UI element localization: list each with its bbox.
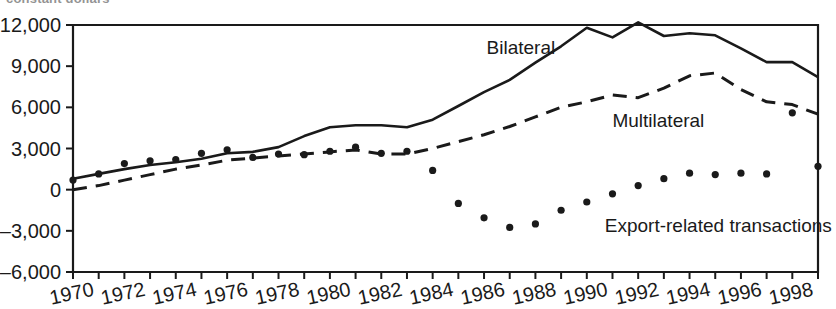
x-tick-label: 1986 [459,278,507,309]
x-tick-label: 1990 [561,278,609,309]
series-solid [73,22,818,178]
x-tick-label: 1972 [99,278,147,309]
data-point [737,170,744,177]
data-point [635,182,642,189]
x-tick-label: 1994 [664,278,712,309]
data-point [609,190,616,197]
series-annotations: BilateralMultilateralExport-related tran… [487,37,832,236]
data-point [480,214,487,221]
data-point [583,198,590,205]
x-tick-label: 1982 [356,278,404,309]
data-point [455,200,462,207]
y-tick-label: 6,000 [11,96,61,118]
data-point [352,144,359,151]
series-label: Bilateral [487,37,556,58]
data-point [712,171,719,178]
series-dashed [73,73,818,190]
data-point [686,170,693,177]
data-point [224,146,231,153]
data-point [403,148,410,155]
x-axis-labels: 1970197219741976197819801982198419861988… [47,278,814,309]
data-point [249,154,256,161]
x-tick-label: 1980 [304,278,352,309]
x-tick-label: 1976 [202,278,250,309]
y-tick-label: 12,000 [0,14,61,36]
data-point [789,109,796,116]
data-point [660,175,667,182]
y-tick-label: –6,000 [0,261,61,283]
data-point [506,224,513,231]
series-label: Export-related transactions [605,215,832,236]
cut-off-chart-title: constant dollars [6,0,110,6]
data-point [146,157,153,164]
data-point [95,170,102,177]
data-point [121,160,128,167]
series-label: Multilateral [612,110,704,131]
y-tick-label: –3,000 [0,220,61,242]
line-chart: –6,000–3,00003,0006,0009,00012,000 19701… [0,0,836,309]
data-point [532,220,539,227]
x-tick-label: 1992 [613,278,661,309]
y-tick-label: 9,000 [11,55,61,77]
series-dotted [69,109,821,231]
data-point [198,150,205,157]
data-point [378,150,385,157]
figure-container: constant dollars –6,000–3,00003,0006,000… [0,0,836,309]
data-point [69,176,76,183]
data-point [275,150,282,157]
data-point [763,170,770,177]
data-point [558,207,565,214]
x-tick-label: 1978 [253,278,301,309]
x-tick-label: 1984 [407,278,455,309]
y-axis-labels: –6,000–3,00003,0006,0009,00012,000 [0,14,61,283]
data-point [301,151,308,158]
y-tick-label: 3,000 [11,138,61,160]
x-tick-label: 1996 [715,278,763,309]
data-point [326,148,333,155]
data-point [172,156,179,163]
x-tick-label: 1998 [767,278,815,309]
x-tick-label: 1988 [510,278,558,309]
data-point [814,163,821,170]
data-point [429,167,436,174]
y-tick-label: 0 [50,179,61,201]
data-series-group [69,22,821,231]
x-tick-label: 1974 [150,278,198,309]
